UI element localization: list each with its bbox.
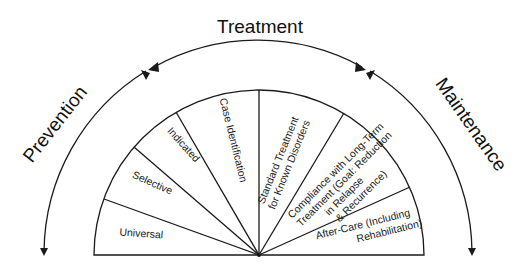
center-point xyxy=(257,253,261,257)
intervention-spectrum-diagram: Treatment Prevention Maintenance Univers… xyxy=(0,0,524,276)
treatment-left-arrowhead xyxy=(148,62,159,72)
segment-label-indicated: Indicated xyxy=(165,124,203,164)
segment-label-selective: Selective xyxy=(131,168,175,196)
prevention-arc xyxy=(44,71,146,252)
phase-label-treatment: Treatment xyxy=(217,16,304,37)
treatment-arc xyxy=(154,40,362,67)
phase-label-maintenance: Maintenance xyxy=(432,74,512,175)
segment-label-universal: Universal xyxy=(119,225,163,240)
segment-label-case-identification: Case Identification xyxy=(218,97,251,184)
phase-label-prevention: Prevention xyxy=(19,82,91,167)
treatment-right-arrowhead xyxy=(355,62,366,72)
prevention-top-arrowhead xyxy=(141,70,150,80)
